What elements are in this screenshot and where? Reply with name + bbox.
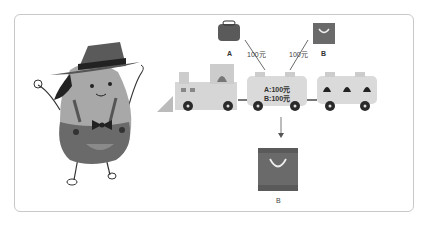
wallet-label: A: [227, 50, 232, 57]
result-label: B: [276, 197, 281, 204]
potato-character-icon: [30, 40, 150, 190]
bag-label: B: [321, 50, 326, 57]
shopping-bag-result-icon: [258, 148, 298, 191]
price-a-label: 100元: [247, 49, 266, 59]
wallet-icon: [217, 20, 241, 42]
price-b-label: 100元: [289, 49, 308, 59]
arrow-down-icon: [276, 117, 286, 139]
car-line-b: B:100元: [264, 93, 290, 103]
